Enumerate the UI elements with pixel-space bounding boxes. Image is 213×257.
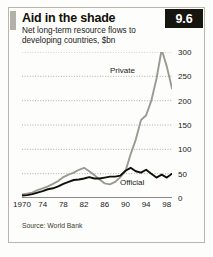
plot-svg [22,52,172,198]
y-tick-label: 0 [178,194,182,203]
series-label-private: Private [110,66,135,75]
y-tick-label: 50 [178,169,187,178]
y-axis-tick-labels: 050100150200250300 [178,52,208,198]
x-tick-label: 82 [80,200,89,209]
x-tick-label: 78 [59,200,68,209]
y-tick-label: 200 [178,96,191,105]
x-tick-label: 86 [100,200,109,209]
chart-subtitle: Net long-term resource flows to developi… [22,26,157,46]
x-tick-label: 94 [142,200,151,209]
x-tick-label: 74 [38,200,47,209]
x-axis-tick-labels: 197074788286909498 [22,200,174,212]
series-label-official: Official [120,178,144,187]
x-tick-label: 1970 [13,200,31,209]
x-tick-label: 90 [121,200,130,209]
source-note: Source: World Bank [22,222,82,229]
plot-area [22,52,172,198]
y-tick-label: 100 [178,145,191,154]
y-tick-label: 300 [178,48,191,57]
y-tick-label: 250 [178,72,191,81]
y-tick-label: 150 [178,121,191,130]
x-tick-label: 98 [162,200,171,209]
title-accent-bar [10,11,16,30]
chart-title: Aid in the shade [22,11,115,25]
figure-number-badge: 9.6 [165,9,203,28]
chart-figure: Aid in the shade Net long-term resource … [0,0,213,257]
